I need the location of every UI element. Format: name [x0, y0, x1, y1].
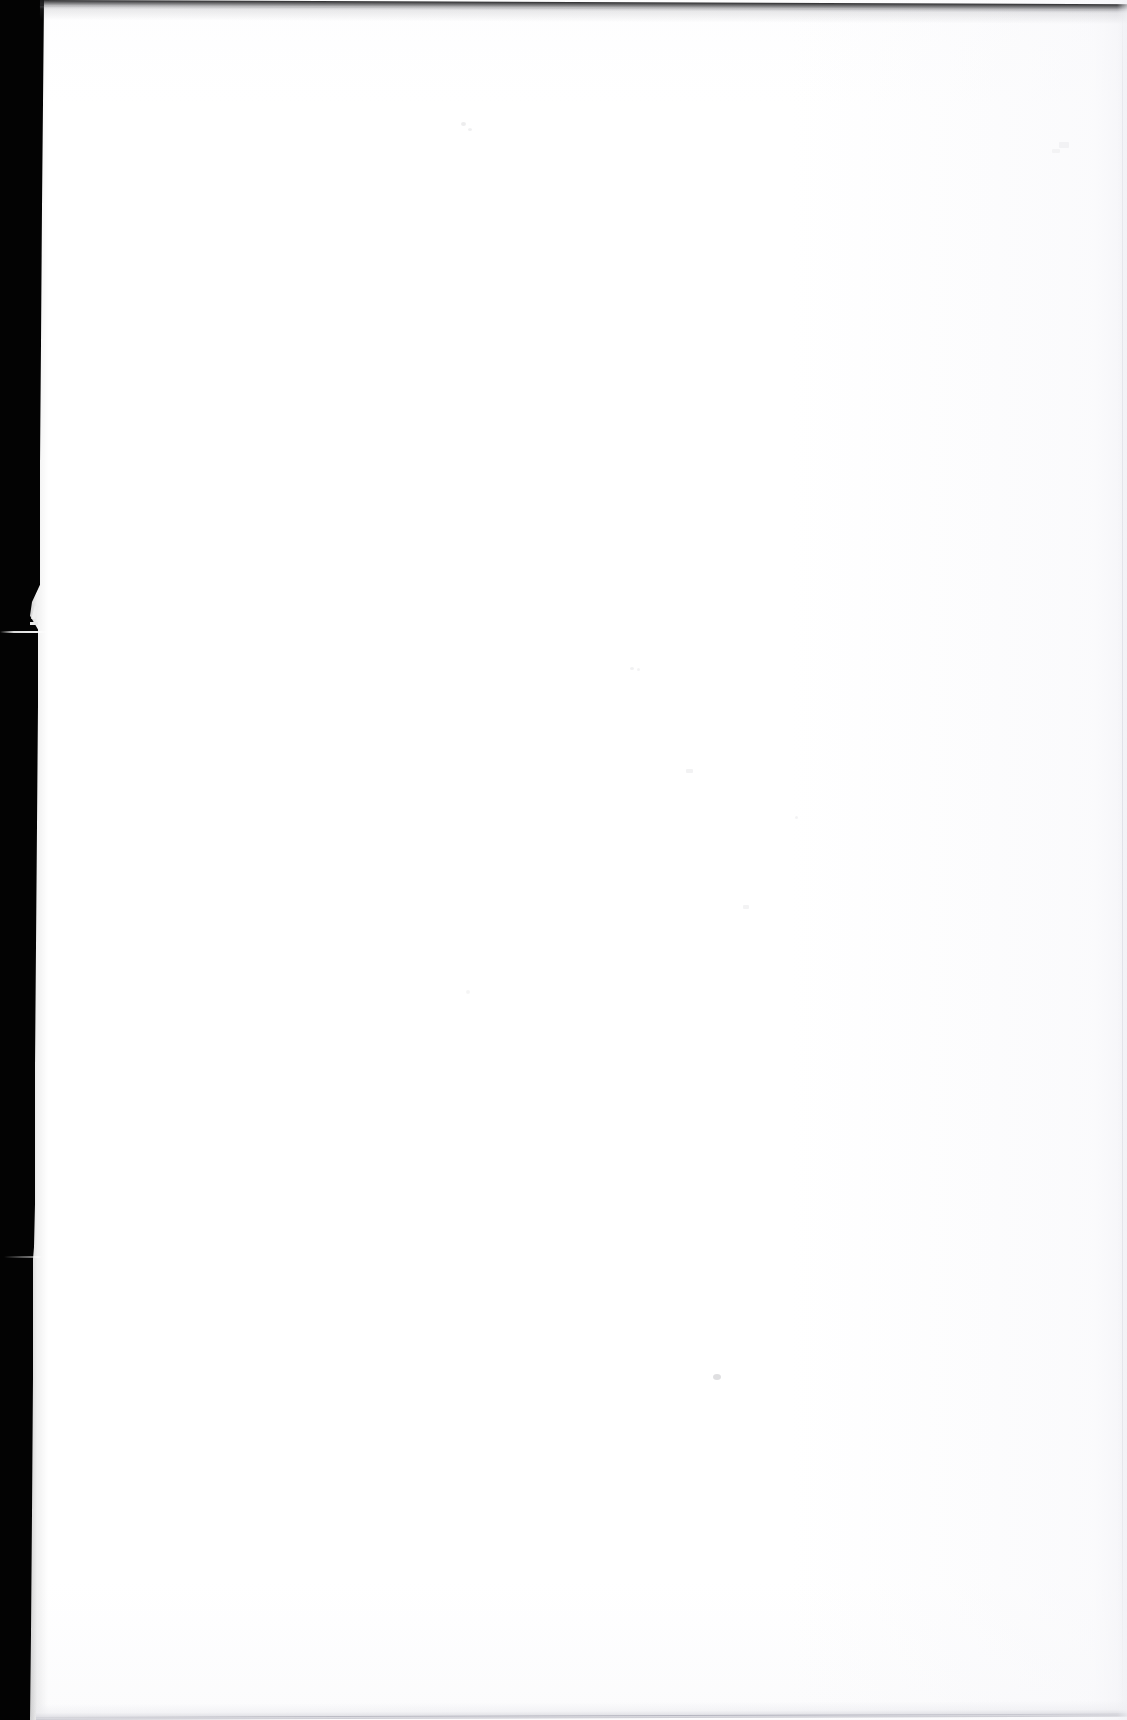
page-body-text: [110, 120, 1040, 1600]
scanned-page: [0, 0, 1127, 1720]
